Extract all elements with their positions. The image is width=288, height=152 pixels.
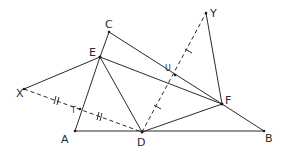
- point-A: [74, 130, 77, 133]
- point-E: [99, 56, 102, 59]
- label-F: F: [225, 94, 231, 107]
- point-U: [174, 74, 177, 77]
- point-D: [141, 131, 144, 134]
- label-B: B: [265, 132, 273, 145]
- label-U: U: [165, 64, 171, 73]
- segment-EF: [100, 57, 222, 104]
- point-T: [79, 108, 82, 111]
- label-A: A: [61, 133, 69, 146]
- label-Y: Y: [209, 7, 217, 20]
- label-D: D: [137, 136, 145, 149]
- double-tick-XT: [54, 96, 59, 105]
- segment-CE: [100, 32, 109, 57]
- label-X: X: [16, 87, 24, 100]
- segment-XD: [24, 89, 142, 132]
- segment-DF: [142, 104, 222, 132]
- label-E: E: [89, 46, 96, 59]
- point-F: [221, 103, 224, 106]
- segment-YF: [206, 13, 222, 104]
- point-C: [108, 31, 111, 34]
- segment-DY: [142, 13, 206, 132]
- segment-FB: [222, 104, 264, 131]
- label-T: T: [70, 106, 76, 115]
- point-Y: [205, 12, 208, 15]
- label-C: C: [105, 18, 113, 31]
- segment-EX: [24, 57, 100, 89]
- segment-ED: [100, 57, 142, 132]
- geometry-diagram: A B C D E F X Y T U: [0, 0, 288, 152]
- segment-EA: [75, 57, 100, 131]
